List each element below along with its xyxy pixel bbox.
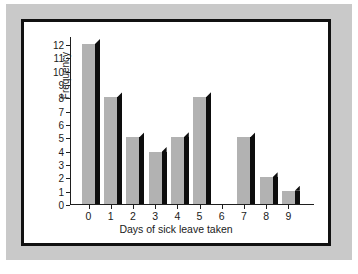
bar-face [126,137,139,204]
x-axis-tick-label: 4 [174,210,180,222]
bar-face [193,97,206,204]
y-axis-tick [66,58,70,59]
y-axis-tick [66,45,70,46]
bar-shadow-side [95,44,100,204]
bar-shadow-top [95,39,100,44]
x-axis-tick-label: 9 [285,210,291,222]
y-axis-tick-label: 3 [42,160,64,171]
bar-8 [260,172,278,204]
bar-chart-panel: Frequency 0123456789101112 0123456789 Da… [24,22,328,243]
x-axis-tick-label: 6 [219,210,225,222]
bar-face [237,137,250,204]
x-axis-tick [89,205,90,209]
bar-shadow-top [139,132,144,137]
y-axis-tick-label: 5 [42,133,64,144]
bar-shadow-side [117,97,122,204]
y-axis-line [70,37,71,205]
bar-face [260,177,273,204]
x-axis-tick [244,205,245,209]
x-axis-tick [266,205,267,209]
y-axis-tick [66,165,70,166]
x-axis-title: Days of sick leave taken [24,223,328,235]
bar-shadow-top [250,132,255,137]
bar-shadow-side [250,137,255,204]
bar-face [82,44,95,204]
y-axis-tick [66,98,70,99]
x-axis-tick [288,205,289,209]
bar-shadow-top [295,186,300,191]
bar-shadow-side [162,152,167,204]
y-axis-tick [66,152,70,153]
bar-face [149,152,162,204]
y-axis-tick [66,125,70,126]
x-axis-tick [200,205,201,209]
x-axis-tick [133,205,134,209]
x-axis-tick-label: 1 [108,210,114,222]
y-axis-tick [66,72,70,73]
bar-face [104,97,117,204]
x-axis-tick [111,205,112,209]
bar-shadow-side [139,137,144,204]
y-axis-tick [66,192,70,193]
x-axis-line [70,204,314,205]
bar-shadow-top [184,132,189,137]
x-axis-tick [222,205,223,209]
y-axis-tick [66,85,70,86]
y-axis-tick-label: 8 [42,93,64,104]
y-axis-tick-label: 1 [42,186,64,197]
bar-face [282,191,295,204]
bar-3 [149,147,167,204]
bar-shadow-side [295,191,300,204]
x-axis-tick [177,205,178,209]
bar-2 [126,132,144,204]
bar-4 [171,132,189,204]
bar-shadow-top [206,92,211,97]
bar-shadow-top [117,92,122,97]
y-axis-tick-label: 10 [42,66,64,77]
bar-shadow-top [162,147,167,152]
bar-shadow-side [184,137,189,204]
x-axis-tick-label: 5 [197,210,203,222]
x-axis-tick-label: 8 [263,210,269,222]
y-axis-tick-label: 11 [42,53,64,64]
x-axis-tick-label: 0 [86,210,92,222]
bar-face [171,137,184,204]
y-axis-tick [66,138,70,139]
y-axis-tick-label: 7 [42,106,64,117]
y-axis-tick-label: 0 [42,200,64,211]
y-axis-tick-label: 2 [42,173,64,184]
y-axis-tick [66,205,70,206]
plot-area: 0123456789101112 0123456789 [70,37,302,205]
x-axis-tick-label: 3 [152,210,158,222]
bar-shadow-top [273,172,278,177]
bar-7 [237,132,255,204]
y-axis-tick-label: 6 [42,120,64,131]
bar-shadow-side [206,97,211,204]
x-axis-tick [155,205,156,209]
figure-root: Frequency 0123456789101112 0123456789 Da… [0,0,358,274]
bar-5 [193,92,211,204]
x-axis-tick-label: 2 [130,210,136,222]
y-axis-tick-label: 9 [42,80,64,91]
bar-9 [282,186,300,204]
bar-1 [104,92,122,204]
y-axis-tick [66,178,70,179]
figure-frame-border: Frequency 0123456789101112 0123456789 Da… [21,19,331,246]
y-axis-tick [66,112,70,113]
y-axis-tick-label: 4 [42,146,64,157]
bar-0 [82,39,100,204]
bar-shadow-side [273,177,278,204]
y-axis-tick-label: 12 [42,40,64,51]
x-axis-tick-label: 7 [241,210,247,222]
